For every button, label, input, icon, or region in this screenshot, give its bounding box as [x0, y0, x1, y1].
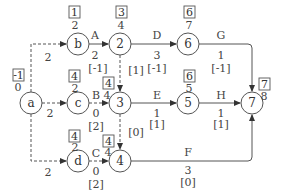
- node-6-box: 6: [184, 6, 195, 19]
- edge-B-name: B: [92, 89, 100, 102]
- edge-2-3-float: [1]: [128, 64, 144, 77]
- edge-B-duration: 0: [93, 107, 100, 120]
- node-a: a: [20, 92, 42, 114]
- node-a-box: -1: [13, 69, 24, 82]
- svg-text:4: 4: [71, 70, 78, 83]
- edge-D-duration: 3: [154, 49, 161, 62]
- svg-text:5: 5: [184, 96, 192, 110]
- edge-G-float: [-1]: [211, 62, 230, 75]
- network-diagram: 2 2 2 A 2 [-1] B 0 [2] C 0 [2] D 3 [-1] …: [0, 0, 284, 196]
- svg-text:3: 3: [118, 6, 125, 19]
- node-3: 3: [109, 92, 131, 114]
- svg-text:b: b: [74, 37, 82, 51]
- svg-text:1: 1: [71, 6, 78, 19]
- edge-F-float: [0]: [180, 176, 196, 189]
- edge-D-float: [-1]: [147, 62, 166, 75]
- node-b-value: 2: [72, 19, 79, 32]
- edge-A-duration: 2: [92, 49, 99, 62]
- svg-text:d: d: [74, 154, 82, 168]
- node-6-value: 7: [186, 19, 193, 32]
- edge-D-name: D: [153, 29, 162, 42]
- node-2-value: 4: [118, 19, 125, 32]
- edge-a-d: [31, 114, 66, 161]
- edge-C-float: [2]: [88, 178, 104, 191]
- edge-C-duration: 0: [93, 165, 100, 178]
- edge-E-name: E: [153, 89, 161, 102]
- edge-a-c-duration: 2: [47, 107, 54, 120]
- svg-text:7: 7: [261, 78, 268, 91]
- node-2: 2: [109, 33, 131, 55]
- svg-text:3: 3: [116, 96, 124, 110]
- node-6: 6: [177, 33, 199, 55]
- edge-G-name: G: [217, 29, 226, 42]
- edge-a-d-duration: 2: [45, 166, 52, 179]
- edge-C-name: C: [92, 147, 100, 160]
- node-c: c: [67, 92, 89, 114]
- edge-F-name: F: [184, 146, 192, 159]
- node-b: b: [67, 33, 89, 55]
- edge-E-float: [1]: [149, 118, 165, 131]
- edge-B-float: [2]: [88, 120, 104, 133]
- node-b-box: 1: [69, 6, 80, 19]
- node-4: 4: [109, 150, 131, 172]
- node-c-value: 2: [72, 82, 79, 95]
- edge-a-b-duration: 2: [45, 51, 52, 64]
- node-5-box: 6: [184, 70, 195, 83]
- node-4-value: 4: [105, 146, 112, 159]
- svg-text:6: 6: [186, 6, 193, 19]
- node-5: 5: [177, 92, 199, 114]
- edge-H-float: [1]: [213, 118, 229, 131]
- edge-3-4-float: [0]: [128, 126, 144, 139]
- svg-text:6: 6: [186, 70, 193, 83]
- node-2-box: 3: [116, 6, 127, 19]
- node-a-value: 0: [15, 81, 22, 94]
- node-c-box: 4: [69, 70, 80, 83]
- node-7-box: 7: [259, 78, 270, 91]
- edge-A-float: [-1]: [88, 62, 107, 75]
- edge-G-duration: 1: [218, 49, 225, 62]
- svg-text:c: c: [75, 96, 82, 110]
- node-5-value: 5: [186, 82, 193, 95]
- node-3-box: 4: [103, 77, 114, 90]
- svg-text:7: 7: [248, 96, 256, 110]
- node-7-value: 8: [261, 90, 268, 103]
- svg-text:4: 4: [116, 154, 124, 168]
- svg-text:4: 4: [105, 77, 112, 90]
- svg-text:6: 6: [184, 37, 192, 51]
- svg-text:-1: -1: [13, 69, 24, 82]
- node-3-value: 4: [104, 89, 111, 102]
- svg-text:a: a: [27, 96, 34, 110]
- edge-A-name: A: [90, 29, 100, 42]
- edge-H-name: H: [216, 89, 226, 102]
- svg-text:2: 2: [116, 37, 124, 51]
- node-d-value: 2: [72, 141, 79, 154]
